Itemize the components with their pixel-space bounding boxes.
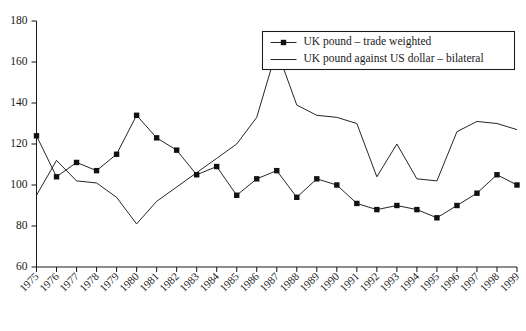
x-axis-tick-label: 1979 bbox=[97, 270, 121, 294]
x-axis-tick-label: 1987 bbox=[257, 270, 281, 294]
data-point-marker bbox=[34, 133, 39, 138]
x-axis-tick-label: 1985 bbox=[217, 270, 241, 294]
data-point-marker bbox=[234, 193, 239, 198]
x-axis-tick-label: 1978 bbox=[77, 270, 101, 294]
data-point-marker bbox=[514, 182, 519, 187]
data-point-marker bbox=[294, 195, 299, 200]
x-axis-tick-label: 1982 bbox=[157, 270, 181, 294]
x-axis-tick-label: 1999 bbox=[497, 270, 521, 294]
data-point-marker bbox=[154, 135, 159, 140]
x-axis-tick-label: 1983 bbox=[177, 270, 201, 294]
data-point-marker bbox=[314, 176, 319, 181]
data-point-marker bbox=[214, 164, 219, 169]
data-point-marker bbox=[174, 147, 179, 152]
x-axis-tick-label: 1988 bbox=[277, 270, 301, 294]
y-axis-tick-label: 100 bbox=[10, 178, 28, 190]
y-axis-tick-label: 180 bbox=[10, 14, 28, 26]
data-point-marker bbox=[114, 152, 119, 157]
y-axis-tick-label: 160 bbox=[10, 55, 28, 67]
series-line-trade-weighted bbox=[37, 115, 518, 218]
x-axis-tick-label: 1993 bbox=[377, 270, 401, 294]
data-point-marker bbox=[434, 215, 439, 220]
x-axis-tick-label: 1980 bbox=[117, 270, 141, 294]
data-point-marker bbox=[474, 191, 479, 196]
data-point-marker bbox=[254, 176, 259, 181]
x-axis-tick-label: 1989 bbox=[297, 270, 321, 294]
x-axis-tick-label: 1995 bbox=[417, 270, 441, 294]
data-point-marker bbox=[74, 160, 79, 165]
line-chart: 6080100120140160180197519761977197819791… bbox=[0, 0, 526, 331]
data-point-marker bbox=[94, 168, 99, 173]
x-axis-tick-label: 1977 bbox=[57, 270, 81, 294]
x-axis-tick-label: 1998 bbox=[477, 270, 501, 294]
y-axis-tick-label: 60 bbox=[16, 260, 28, 272]
x-axis-tick-label: 1996 bbox=[437, 270, 461, 294]
x-axis-tick-label: 1990 bbox=[317, 270, 341, 294]
legend-marker-sample-0 bbox=[281, 40, 286, 45]
x-axis-tick-label: 1976 bbox=[37, 270, 61, 294]
legend-label-1: UK pound against US dollar – bilateral bbox=[304, 52, 484, 65]
y-axis-tick-label: 140 bbox=[10, 96, 28, 108]
x-axis-tick-label: 1984 bbox=[197, 270, 221, 294]
x-axis-tick-label: 1981 bbox=[137, 270, 161, 294]
data-point-marker bbox=[494, 172, 499, 177]
y-axis-tick-label: 80 bbox=[16, 219, 28, 231]
x-axis-tick-label: 1991 bbox=[337, 270, 361, 294]
data-point-marker bbox=[354, 201, 359, 206]
x-axis-tick-label: 1997 bbox=[457, 270, 481, 294]
data-point-marker bbox=[334, 182, 339, 187]
data-point-marker bbox=[454, 203, 459, 208]
series-line-bilateral bbox=[37, 50, 518, 224]
x-axis-tick-label: 1975 bbox=[17, 270, 41, 294]
x-axis-tick-label: 1994 bbox=[397, 270, 421, 294]
data-point-marker bbox=[274, 168, 279, 173]
data-point-marker bbox=[394, 203, 399, 208]
data-point-marker bbox=[54, 174, 59, 179]
data-point-marker bbox=[134, 113, 139, 118]
data-point-marker bbox=[374, 207, 379, 212]
y-axis-tick-label: 120 bbox=[10, 137, 28, 149]
data-point-marker bbox=[414, 207, 419, 212]
chart-container: 6080100120140160180197519761977197819791… bbox=[0, 0, 526, 331]
data-point-marker bbox=[194, 172, 199, 177]
legend-label-0: UK pound – trade weighted bbox=[304, 35, 432, 48]
x-axis-tick-label: 1986 bbox=[237, 270, 261, 294]
x-axis-tick-label: 1992 bbox=[357, 270, 381, 294]
